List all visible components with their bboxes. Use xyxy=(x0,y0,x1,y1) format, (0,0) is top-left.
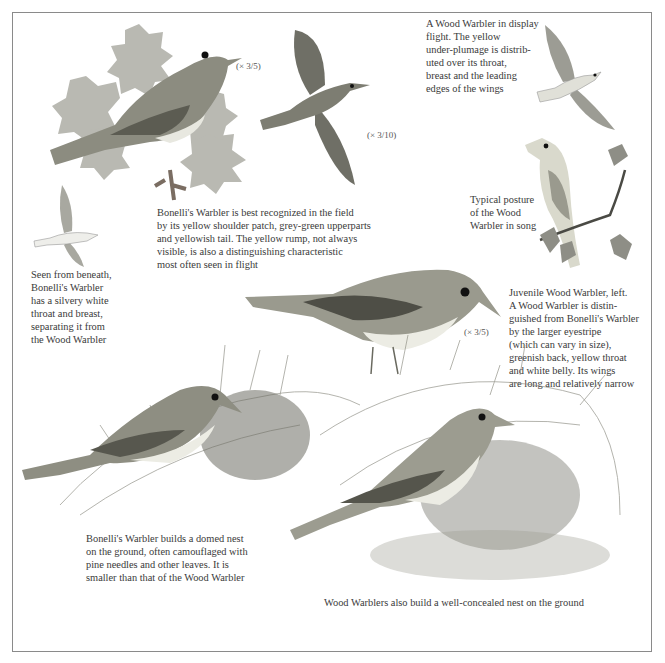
caption-bonelli-nest: Bonelli's Warbler builds a domed nest on… xyxy=(86,532,248,584)
perched-bonellis-warbler-illustration xyxy=(20,20,270,205)
flying-bonellis-warbler-illustration xyxy=(255,25,375,195)
bonellis-warbler-from-beneath-illustration xyxy=(32,183,102,268)
wood-warbler-display-flight-illustration xyxy=(535,20,620,135)
scale-label-flying: (× 3/10) xyxy=(367,130,396,140)
caption-song-posture: Typical posture of the Wood Warbler in s… xyxy=(470,193,536,232)
caption-wood-warbler-nest: Wood Warblers also build a well-conceale… xyxy=(324,596,584,609)
caption-display-flight: A Wood Warbler in display flight. The ye… xyxy=(426,17,539,95)
wood-warbler-singing-illustration xyxy=(520,130,645,280)
